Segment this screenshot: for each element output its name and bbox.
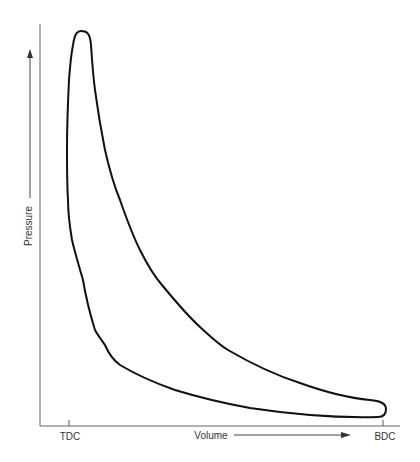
bdc-label: BDC — [374, 431, 395, 442]
x-axis-label: Volume — [194, 430, 228, 441]
tdc-label: TDC — [60, 431, 81, 442]
pressure-arrow-head-icon — [27, 49, 33, 58]
pv-loop-curve — [67, 31, 386, 417]
y-axis-label: Pressure — [23, 206, 34, 246]
pv-diagram: TDC BDC Volume Pressure — [0, 0, 420, 462]
volume-arrow-head-icon — [341, 432, 351, 438]
